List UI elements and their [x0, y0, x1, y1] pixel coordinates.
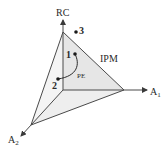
axis-label-a2: A2 [8, 134, 19, 147]
point-label-1: 1 [66, 49, 71, 60]
axis-label-rc: RC [56, 7, 70, 18]
point-label-2: 2 [52, 80, 57, 91]
point-3 [74, 30, 78, 34]
region-label-ipm: IPM [100, 53, 118, 64]
axis-label-a1: A1 [150, 86, 161, 99]
path-label-pe: PE [77, 72, 85, 80]
point-label-3: 3 [79, 25, 84, 36]
point-1 [73, 52, 77, 56]
ipm-diagram: RC A1 A2 IPM PE 3 1 2 [0, 0, 168, 151]
